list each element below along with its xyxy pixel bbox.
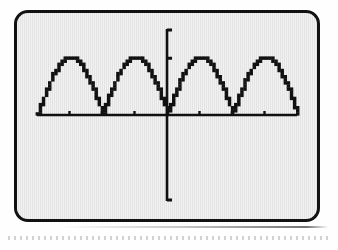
curve-pixel: [197, 56, 200, 59]
curve-pixel: [48, 81, 51, 84]
curve-pixel: [57, 69, 60, 72]
curve-pixel: [141, 56, 144, 59]
curve-pixel: [98, 103, 101, 106]
curve-pixel: [246, 75, 249, 78]
curve-pixel: [184, 72, 187, 75]
curve-pixel: [181, 78, 184, 81]
curve-pixel: [101, 106, 104, 109]
curve-pixel: [64, 56, 67, 59]
curve-pixel: [169, 106, 172, 109]
curve-pixel: [132, 56, 135, 59]
curve-pixel: [153, 81, 156, 84]
curve-pixel: [212, 69, 215, 72]
curve-pixel: [107, 103, 110, 106]
curve-pixel: [246, 72, 249, 75]
curve-pixel: [88, 78, 91, 81]
curve-pixel: [42, 103, 45, 106]
curve-pixel: [215, 69, 218, 72]
curve-pixel: [175, 94, 178, 97]
curve-pixel: [240, 91, 243, 94]
curve-pixel: [110, 91, 113, 94]
curve-pixel: [64, 60, 67, 63]
figure-page: [0, 0, 338, 250]
curve-pixel: [274, 60, 277, 63]
curve-pixel: [104, 106, 107, 109]
curve-pixel: [215, 75, 218, 78]
curve-pixel: [60, 63, 63, 66]
curve-pixel: [240, 87, 243, 90]
curve-pixel: [284, 81, 287, 84]
curve-pixel: [281, 69, 284, 72]
curve-pixel: [104, 109, 107, 112]
curve-pixel: [51, 75, 54, 78]
curve-pixel: [246, 78, 249, 81]
curve-pixel: [157, 87, 160, 90]
curve-pixel: [194, 56, 197, 59]
curve-pixel: [228, 103, 231, 106]
curve-pixel: [277, 69, 280, 72]
curve-pixel: [290, 91, 293, 94]
curve-pixel: [39, 112, 42, 115]
curve-pixel: [129, 56, 132, 59]
curve-pixel: [262, 56, 265, 59]
curve-pixel: [95, 91, 98, 94]
curve-pixel: [147, 66, 150, 69]
curve-pixel: [79, 60, 82, 63]
curve-pixel: [237, 97, 240, 100]
curve-pixel: [160, 94, 163, 97]
curve-pixel: [240, 94, 243, 97]
curve-pixel: [39, 109, 42, 112]
curve-pixel: [293, 103, 296, 106]
curve-pixel: [243, 81, 246, 84]
curve-pixel: [268, 56, 271, 59]
curve-pixel: [234, 103, 237, 106]
curve-pixel: [237, 94, 240, 97]
curve-pixel: [188, 63, 191, 66]
curve-pixel: [178, 81, 181, 84]
curve-pixel: [45, 87, 48, 90]
curve-pixel: [79, 63, 82, 66]
curve-pixel: [116, 72, 119, 75]
curve-pixel: [191, 63, 194, 66]
curve-pixel: [259, 60, 262, 63]
curve-pixel: [237, 103, 240, 106]
curve-pixel: [284, 78, 287, 81]
curve-pixel: [290, 87, 293, 90]
curve-pixel: [225, 97, 228, 100]
curve-pixel: [274, 63, 277, 66]
curve-pixel: [36, 112, 39, 115]
curve-pixel: [95, 94, 98, 97]
curve-pixel: [222, 81, 225, 84]
curve-pixel: [42, 97, 45, 100]
curve-pixel: [54, 69, 57, 72]
curve-pixel: [82, 63, 85, 66]
curve-pixel: [287, 81, 290, 84]
curve-pixel: [153, 78, 156, 81]
curve-pixel: [104, 112, 107, 115]
curve-pixel: [178, 87, 181, 90]
curve-pixel: [163, 97, 166, 100]
curve-pixel: [48, 84, 51, 87]
curve-pixel: [116, 78, 119, 81]
curve-pixel: [101, 112, 104, 115]
curve-pixel: [253, 66, 256, 69]
curve-pixel: [122, 63, 125, 66]
curve-pixel: [256, 60, 259, 63]
curve-pixel: [206, 60, 209, 63]
curve-pixel: [85, 72, 88, 75]
curve-pixel: [253, 63, 256, 66]
curve-pixel: [147, 69, 150, 72]
curve-pixel: [271, 60, 274, 63]
curve-pixel: [166, 112, 169, 115]
curve-pixel: [122, 66, 125, 69]
curve-pixel: [95, 97, 98, 100]
curve-pixel: [144, 63, 147, 66]
curve-pixel: [237, 100, 240, 103]
curve-pixel: [175, 87, 178, 90]
curve-pixel: [45, 91, 48, 94]
curve-pixel: [160, 87, 163, 90]
curve-pixel: [51, 72, 54, 75]
curve-pixel: [60, 60, 63, 63]
curve-pixel: [107, 94, 110, 97]
curve-pixel: [113, 84, 116, 87]
